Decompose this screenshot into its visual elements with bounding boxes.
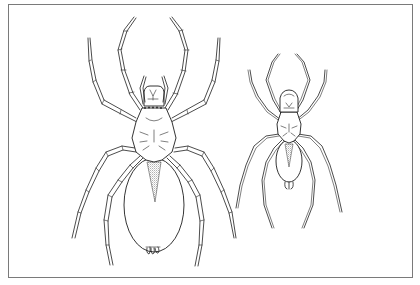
small-spider-leg-2-left — [250, 70, 281, 120]
large-spider-leg-2-left — [88, 38, 137, 122]
small-spider-leg-3-left — [236, 134, 279, 208]
spider-illustration — [0, 0, 420, 285]
large-spider — [72, 17, 236, 266]
small-spider-leg-3-right — [298, 134, 342, 212]
large-spider-leg-1-right — [165, 17, 189, 110]
small-spider-spinnerets — [285, 182, 294, 189]
large-spider-chelicerae — [144, 86, 164, 106]
small-spider-head — [280, 90, 298, 112]
small-spider — [236, 54, 342, 228]
large-spider-leg-1-left — [118, 17, 143, 110]
